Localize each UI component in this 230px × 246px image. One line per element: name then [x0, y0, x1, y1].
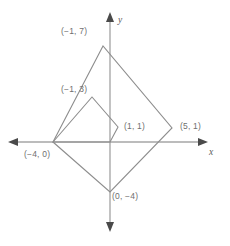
- y-axis-down-arrow: [106, 222, 114, 232]
- small-square-outline: [53, 97, 118, 142]
- vertex-label-neg1-7: (−1, 7): [61, 27, 87, 36]
- vertex-label-5-1: (5, 1): [180, 122, 201, 131]
- y-axis-label: y: [118, 16, 122, 26]
- vertex-label-neg1-3: (−1, 3): [61, 85, 87, 94]
- vertex-label-neg4-0: (−4, 0): [24, 150, 50, 159]
- y-axis-up-arrow: [106, 12, 114, 22]
- large-square-outline: [53, 46, 172, 192]
- vertex-label-1-1: (1, 1): [124, 122, 145, 131]
- x-axis-left-arrow: [8, 138, 18, 146]
- coordinate-plane-figure: (−1, 7) (−1, 3) (1, 1) (5, 1) (−4, 0) (0…: [0, 0, 230, 246]
- x-axis-right-arrow: [198, 138, 208, 146]
- x-axis-label: x: [209, 148, 213, 158]
- vertex-label-0-neg4: (0, −4): [112, 192, 138, 201]
